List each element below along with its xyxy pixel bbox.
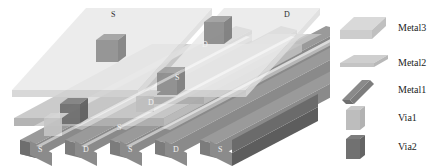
mid-label-s-1: S <box>175 74 179 82</box>
via2-block <box>204 16 232 44</box>
mid-label-d-1: D <box>202 41 208 49</box>
metal3-slab-icon <box>338 14 392 44</box>
top-label-s: S <box>111 11 115 19</box>
bottom-label-s-2: S <box>128 146 132 154</box>
isometric-stack-diagram: S D D S D S S D S D S <box>0 0 330 168</box>
legend-item-metal3: Metal3 <box>330 14 444 44</box>
legend-label-via2: Via2 <box>398 141 417 152</box>
bottom-label-s-3: S <box>218 146 222 154</box>
mid-label-d-2: D <box>148 99 154 107</box>
via2-block <box>96 34 126 62</box>
interconnect-stack-figure: S D D S D S S D S D S Metal3 <box>0 0 444 168</box>
legend-item-via2: Via2 <box>330 133 444 163</box>
legend-label-metal3: Metal3 <box>398 22 426 33</box>
metal2-slab-icon <box>338 49 392 79</box>
legend-label-metal2: Metal2 <box>398 57 426 68</box>
stack-svg <box>0 0 330 168</box>
legend: Metal3 Metal2 Metal1 <box>330 0 444 168</box>
bottom-label-d-2: D <box>173 146 179 154</box>
mid-label-s-2: S <box>117 124 121 132</box>
legend-item-via1: Via1 <box>330 104 444 134</box>
via2-block <box>60 98 88 124</box>
bottom-label-d-1: D <box>83 146 89 154</box>
legend-item-metal1: Metal1 <box>330 76 444 106</box>
legend-item-metal2: Metal2 <box>330 49 444 79</box>
top-label-d: D <box>284 11 290 19</box>
via1-cube-icon <box>338 104 392 134</box>
legend-label-via1: Via1 <box>398 112 417 123</box>
bottom-label-s-1: S <box>38 146 42 154</box>
metal1-bar-icon <box>338 76 392 106</box>
legend-label-metal1: Metal1 <box>398 84 426 95</box>
via2-cube-icon <box>338 133 392 163</box>
